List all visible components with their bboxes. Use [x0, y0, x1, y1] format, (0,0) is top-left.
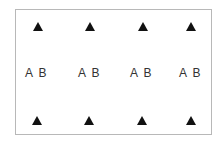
triangle-up-icon: [186, 116, 196, 125]
label-pair-3: AB: [130, 67, 152, 79]
label-b: B: [92, 66, 101, 80]
label-b: B: [193, 66, 202, 80]
label-pair-4: AB: [179, 67, 201, 79]
triangle-up-icon: [33, 22, 43, 31]
triangle-up-icon: [84, 116, 94, 125]
triangle-up-icon: [186, 22, 196, 31]
triangle-up-icon: [85, 22, 95, 31]
label-pair-2: AB: [78, 67, 100, 79]
label-a: A: [179, 66, 188, 80]
label-b: B: [39, 66, 48, 80]
label-a: A: [25, 66, 34, 80]
label-pair-1: AB: [25, 67, 47, 79]
label-b: B: [144, 66, 153, 80]
triangle-up-icon: [137, 116, 147, 125]
triangle-up-icon: [138, 22, 148, 31]
triangle-up-icon: [32, 116, 42, 125]
label-a: A: [78, 66, 87, 80]
label-a: A: [130, 66, 139, 80]
